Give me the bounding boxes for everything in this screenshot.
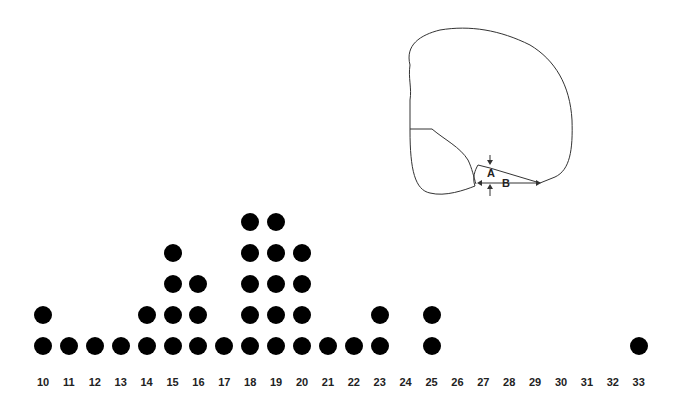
data-dot: [215, 337, 233, 355]
data-dot: [371, 306, 389, 324]
data-dot: [189, 275, 207, 293]
data-dot: [164, 244, 182, 262]
data-dot: [319, 337, 337, 355]
x-tick-label: 17: [218, 376, 230, 388]
data-dot: [267, 337, 285, 355]
data-dot: [164, 306, 182, 324]
data-dot: [34, 306, 52, 324]
data-dot: [293, 275, 311, 293]
data-dot: [423, 337, 441, 355]
x-tick-label: 27: [477, 376, 489, 388]
x-tick-label: 12: [89, 376, 101, 388]
data-dot: [34, 337, 52, 355]
dimension-b-label: B: [502, 177, 510, 189]
data-dot: [267, 213, 285, 231]
x-tick-label: 22: [348, 376, 360, 388]
x-tick-label: 24: [399, 376, 411, 388]
data-dot: [241, 213, 259, 231]
data-dot: [293, 306, 311, 324]
data-dot: [86, 337, 104, 355]
dimension-a-label: A: [487, 167, 495, 179]
data-dot: [241, 244, 259, 262]
x-tick-label: 30: [555, 376, 567, 388]
x-tick-label: 31: [581, 376, 593, 388]
x-tick-label: 25: [425, 376, 437, 388]
x-tick-label: 29: [529, 376, 541, 388]
x-tick-label: 15: [166, 376, 178, 388]
x-tick-label: 33: [633, 376, 645, 388]
x-tick-label: 21: [322, 376, 334, 388]
data-dot: [345, 337, 363, 355]
data-dot: [293, 244, 311, 262]
x-tick-label: 16: [192, 376, 204, 388]
x-tick-label: 18: [244, 376, 256, 388]
data-dot: [112, 337, 130, 355]
x-tick-label: 14: [140, 376, 152, 388]
x-tick-label: 13: [115, 376, 127, 388]
data-dot: [267, 306, 285, 324]
data-dot: [138, 337, 156, 355]
x-tick-label: 19: [270, 376, 282, 388]
data-dot: [423, 306, 441, 324]
data-dot: [293, 337, 311, 355]
data-dot: [241, 337, 259, 355]
data-dot: [241, 306, 259, 324]
dot-plot-figure: 1011121314151617181920212223242526272829…: [0, 0, 679, 410]
x-tick-label: 26: [451, 376, 463, 388]
x-tick-label: 23: [374, 376, 386, 388]
data-dot: [241, 275, 259, 293]
data-dot: [189, 306, 207, 324]
x-tick-label: 20: [296, 376, 308, 388]
x-tick-label: 11: [63, 376, 75, 388]
data-dot: [138, 306, 156, 324]
data-dot: [267, 244, 285, 262]
data-dot: [189, 337, 207, 355]
data-dot: [630, 337, 648, 355]
data-dot: [371, 337, 389, 355]
data-dot: [164, 337, 182, 355]
data-dot: [267, 275, 285, 293]
x-tick-label: 10: [37, 376, 49, 388]
outline-diagram: A B: [390, 0, 590, 200]
x-tick-label: 32: [607, 376, 619, 388]
data-dot: [164, 275, 182, 293]
data-dot: [60, 337, 78, 355]
x-tick-label: 28: [503, 376, 515, 388]
